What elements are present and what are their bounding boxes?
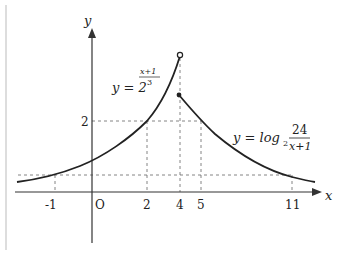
x-axis-label: x	[325, 188, 333, 203]
svg-text:x+1: x+1	[289, 140, 311, 153]
x-axis-arrow-icon	[312, 188, 322, 196]
svg-text:24: 24	[292, 123, 308, 137]
svg-text:2: 2	[283, 139, 288, 148]
svg-text:3: 3	[147, 78, 152, 87]
origin-label: O	[95, 198, 105, 212]
y-tick-2: 2	[81, 115, 89, 129]
exponential-label: y = 2 x+1 3	[111, 67, 160, 95]
y-axis-arrow-icon	[88, 28, 96, 38]
open-endpoint-icon	[177, 52, 182, 57]
svg-text:y = 2: y = 2	[111, 80, 147, 95]
guide-lines	[18, 58, 292, 192]
svg-text:y = log: y = log	[232, 130, 280, 145]
x-tick-5: 5	[197, 198, 205, 212]
function-graph: x y O -1 2 4 5 11 2 y = 2 x+1 3 y = log …	[0, 0, 345, 258]
logarithmic-label: y = log 2 24 x+1	[232, 123, 311, 153]
closed-endpoint-icon	[177, 93, 182, 98]
x-tick-2: 2	[143, 198, 151, 212]
y-axis-label: y	[83, 13, 92, 28]
x-tick-11: 11	[285, 198, 300, 212]
x-tick-neg1: -1	[45, 198, 57, 212]
svg-text:x+1: x+1	[140, 67, 156, 76]
x-tick-4: 4	[176, 198, 184, 212]
